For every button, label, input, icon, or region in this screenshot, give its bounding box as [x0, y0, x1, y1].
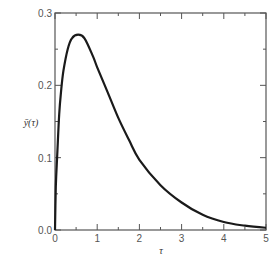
data-curve	[55, 35, 266, 230]
x-tick-label: 3	[179, 233, 185, 244]
y-tick-label: 0.3	[38, 8, 52, 19]
y-axis-ticks: 0.00.10.20.3	[38, 8, 266, 236]
x-tick-label: 4	[221, 233, 227, 244]
x-tick-label: 0	[52, 233, 58, 244]
y-tick-label: 0.0	[38, 225, 52, 236]
x-tick-label: 2	[137, 233, 143, 244]
x-tick-label: 5	[263, 233, 269, 244]
plot-frame	[55, 13, 266, 230]
chart: 012345 0.00.10.20.3 τ ȳ(τ)	[0, 0, 280, 271]
y-tick-label: 0.2	[38, 80, 52, 91]
x-tick-label: 1	[94, 233, 100, 244]
x-axis-ticks: 012345	[52, 13, 269, 244]
x-axis-label: τ	[159, 245, 163, 256]
y-axis-label: ȳ(τ)	[23, 117, 39, 129]
y-tick-label: 0.1	[38, 153, 52, 164]
